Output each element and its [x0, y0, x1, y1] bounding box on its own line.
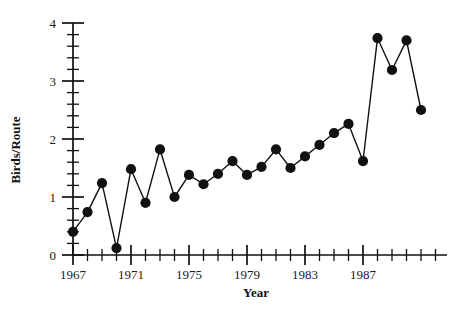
- data-point-marker: [97, 178, 107, 188]
- data-point-marker: [256, 162, 266, 172]
- data-point-marker: [242, 170, 252, 180]
- data-point-marker: [271, 144, 281, 154]
- data-point-marker: [184, 170, 194, 180]
- data-point-marker: [329, 128, 339, 138]
- y-axis-title: Birds/Route: [8, 116, 23, 183]
- data-point-marker: [358, 156, 368, 166]
- y-axis-tick-label: 4: [50, 16, 57, 31]
- data-point-marker: [213, 169, 223, 179]
- data-point-marker: [126, 164, 136, 174]
- data-point-marker: [140, 198, 150, 208]
- x-axis-tick-label: 1979: [234, 267, 260, 282]
- data-point-marker: [343, 119, 353, 129]
- chart-figure: 01234 196719711975197919831987 Birds/Rou…: [0, 0, 467, 310]
- line-chart-canvas: 01234 196719711975197919831987 Birds/Rou…: [0, 0, 467, 310]
- data-point-marker: [416, 105, 426, 115]
- y-axis-tick-label: 0: [50, 248, 57, 263]
- data-point-marker: [300, 151, 310, 161]
- data-point-marker: [68, 227, 78, 237]
- data-point-marker: [314, 140, 324, 150]
- data-point-marker: [155, 144, 165, 154]
- x-axis-tick-label: 1975: [176, 267, 202, 282]
- data-point-marker: [111, 243, 121, 253]
- data-point-marker: [372, 33, 382, 43]
- x-axis-tick-label: 1971: [118, 267, 144, 282]
- data-point-marker: [198, 179, 208, 189]
- x-axis-tick-label: 1987: [350, 267, 377, 282]
- data-point-marker: [82, 207, 92, 217]
- y-axis-tick-label: 1: [50, 190, 57, 205]
- data-point-marker: [169, 192, 179, 202]
- data-point-marker: [227, 156, 237, 166]
- data-point-marker: [401, 35, 411, 45]
- y-axis-tick-label: 2: [50, 132, 57, 147]
- x-axis-tick-label: 1967: [60, 267, 87, 282]
- data-point-marker: [387, 65, 397, 75]
- x-axis-tick-label: 1983: [292, 267, 318, 282]
- data-point-marker: [285, 163, 295, 173]
- y-axis-tick-label: 3: [50, 74, 57, 89]
- x-axis-title: Year: [243, 285, 269, 300]
